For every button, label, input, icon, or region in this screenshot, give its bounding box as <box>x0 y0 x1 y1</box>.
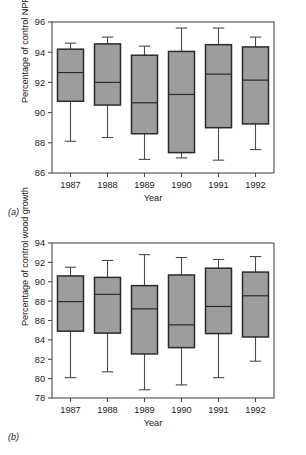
boxplot-1988 <box>95 260 121 371</box>
y-tick-label: 86 <box>35 316 45 326</box>
box-iqr <box>132 55 158 134</box>
box-iqr <box>95 44 121 105</box>
y-tick-label: 84 <box>35 335 45 345</box>
panel-a: Percentage of control NPP 86889092949619… <box>0 0 306 230</box>
x-tick-label: 1990 <box>171 180 191 190</box>
x-tick-label: 1992 <box>245 180 265 190</box>
y-tick-label: 94 <box>35 48 45 58</box>
x-tick-label: 1991 <box>208 405 228 415</box>
plot-frame <box>52 22 274 173</box>
x-tick-label: 1991 <box>208 180 228 190</box>
y-tick-label: 82 <box>35 355 45 365</box>
box-iqr <box>243 47 269 124</box>
boxplot-1989 <box>132 46 158 159</box>
y-tick-label: 88 <box>35 297 45 307</box>
x-axis-label-a: Year <box>0 193 306 203</box>
x-tick-label: 1987 <box>60 180 80 190</box>
x-tick-label: 1992 <box>245 405 265 415</box>
plot-frame <box>52 243 274 398</box>
boxplot-1990 <box>169 258 195 385</box>
box-iqr <box>243 272 269 337</box>
box-iqr <box>169 51 195 152</box>
x-axis-label-b: Year <box>0 418 306 428</box>
y-tick-label: 96 <box>35 17 45 27</box>
x-tick-label: 1989 <box>134 180 154 190</box>
box-iqr <box>58 49 84 101</box>
y-tick-label: 90 <box>35 108 45 118</box>
y-tick-label: 78 <box>35 393 45 403</box>
box-iqr <box>206 45 232 128</box>
boxplot-1992 <box>243 37 269 149</box>
boxplot-1989 <box>132 255 158 390</box>
y-tick-label: 90 <box>35 277 45 287</box>
y-tick-label: 92 <box>35 78 45 88</box>
box-iqr <box>206 268 232 333</box>
panel-tag-b: (b) <box>8 432 19 442</box>
boxplot-1987 <box>58 43 84 141</box>
x-tick-label: 1988 <box>97 180 117 190</box>
boxplot-1991 <box>206 28 232 160</box>
x-tick-label: 1990 <box>171 405 191 415</box>
panel-tag-a: (a) <box>8 207 19 217</box>
boxplot-1992 <box>243 257 269 362</box>
boxplot-figure: Percentage of control NPP 86889092949619… <box>0 0 306 455</box>
box-iqr <box>95 277 121 333</box>
plot-area-b: 7880828486889092941987198819891990199119… <box>0 225 306 425</box>
y-tick-label: 88 <box>35 138 45 148</box>
plot-area-a: 868890929496198719881989199019911992 <box>0 0 306 200</box>
box-iqr <box>132 286 158 354</box>
boxplot-1990 <box>169 28 195 158</box>
x-tick-label: 1987 <box>60 405 80 415</box>
boxplot-1991 <box>206 259 232 377</box>
y-tick-label: 92 <box>35 258 45 268</box>
y-tick-label: 80 <box>35 374 45 384</box>
box-iqr <box>169 275 195 348</box>
box-iqr <box>58 276 84 331</box>
panel-b: Percentage of control wood growth 788082… <box>0 225 306 455</box>
x-tick-label: 1988 <box>97 405 117 415</box>
y-tick-label: 86 <box>35 168 45 178</box>
boxplot-1987 <box>58 267 84 377</box>
boxplot-1988 <box>95 37 121 137</box>
y-tick-label: 94 <box>35 238 45 248</box>
x-tick-label: 1989 <box>134 405 154 415</box>
